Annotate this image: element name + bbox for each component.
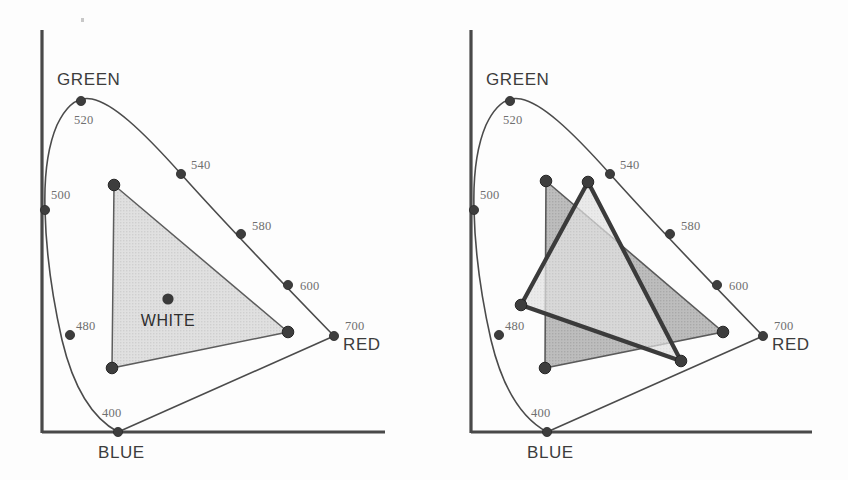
wavelength-marker-480	[494, 330, 503, 339]
corner-label-green: GREEN	[57, 70, 120, 89]
wavelength-marker-540	[605, 169, 614, 178]
wavelength-label-580: 580	[681, 219, 701, 233]
wavelength-label-700: 700	[345, 319, 365, 333]
gamut-vertex-gamut-a-dark-1	[717, 326, 729, 338]
gamut-vertex-gamut-b-light-2	[515, 299, 527, 311]
gamut-vertex-display-gamut-0	[108, 179, 120, 191]
gamut-vertex-display-gamut-2	[106, 362, 118, 374]
wavelength-marker-580	[665, 229, 674, 238]
wavelength-label-540: 540	[191, 158, 211, 172]
wavelength-label-540: 540	[620, 158, 640, 172]
wavelength-label-600: 600	[729, 279, 749, 293]
chromaticity-plot-left: 400480500520540580600700 GREENREDBLUE WH…	[0, 0, 424, 480]
corner-label-group: GREENREDBLUE	[486, 70, 810, 462]
gamut-vertex-gamut-b-light-0	[582, 176, 594, 188]
wavelength-label-700: 700	[774, 319, 794, 333]
wavelength-marker-540	[176, 169, 185, 178]
wavelength-label-580: 580	[252, 219, 272, 233]
gamut-vertex-gamut-a-dark-2	[539, 362, 551, 374]
wavelength-label-480: 480	[505, 319, 525, 333]
chart-panel-left: 400480500520540580600700 GREENREDBLUE WH…	[0, 0, 424, 480]
wavelength-marker-700	[758, 331, 767, 340]
wavelength-marker-600	[712, 280, 721, 289]
wavelength-label-500: 500	[480, 188, 500, 202]
wavelength-marker-400	[113, 427, 122, 436]
wavelength-label-400: 400	[531, 406, 551, 420]
wavelength-marker-700	[329, 331, 338, 340]
white-point-marker	[162, 293, 173, 304]
wavelength-marker-400	[542, 427, 551, 436]
wavelength-label-520: 520	[74, 113, 94, 127]
corner-label-blue: BLUE	[527, 443, 574, 462]
wavelength-label-520: 520	[503, 113, 523, 127]
wavelength-marker-480	[65, 330, 74, 339]
chart-panel-right: 400480500520540580600700 GREENREDBLUE	[424, 0, 848, 480]
chromaticity-plot-right: 400480500520540580600700 GREENREDBLUE	[424, 0, 848, 480]
wavelength-label-600: 600	[300, 279, 320, 293]
paper-speck	[81, 18, 84, 22]
wavelength-label-400: 400	[102, 406, 122, 420]
corner-label-green: GREEN	[486, 70, 549, 89]
cie-diagram-figure: 400480500520540580600700 GREENREDBLUE WH…	[0, 0, 848, 480]
corner-label-red: RED	[343, 335, 381, 354]
white-point-label: WHITE	[141, 312, 196, 329]
wavelength-marker-500	[40, 205, 49, 214]
corner-label-blue: BLUE	[98, 443, 145, 462]
wavelength-label-480: 480	[76, 319, 96, 333]
corner-label-group: GREENREDBLUE	[57, 70, 381, 462]
wavelength-marker-520	[76, 96, 85, 105]
wavelength-marker-500	[469, 205, 478, 214]
gamut-triangle-display	[112, 185, 288, 368]
wavelength-marker-520	[505, 96, 514, 105]
corner-label-red: RED	[772, 335, 810, 354]
wavelength-marker-580	[236, 229, 245, 238]
gamut-vertex-gamut-a-dark-0	[540, 175, 552, 187]
wavelength-label-500: 500	[51, 188, 71, 202]
gamut-vertex-gamut-b-light-1	[675, 355, 687, 367]
wavelength-marker-600	[283, 280, 292, 289]
gamut-vertex-display-gamut-1	[282, 326, 294, 338]
